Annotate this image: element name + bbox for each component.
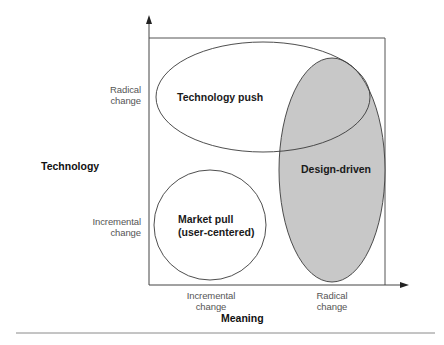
x-tick-incremental: Incremental change: [181, 290, 241, 312]
x-axis-arrow-icon: [400, 282, 409, 288]
design-driven-label: Design-driven: [301, 163, 371, 176]
technology-push-label: Technology push: [177, 91, 263, 104]
x-axis-title: Meaning: [221, 312, 264, 324]
x-tick-radical: Radical change: [302, 290, 362, 312]
y-tick-radical: Radical change: [100, 84, 141, 106]
y-axis-arrow-icon: [146, 15, 152, 24]
y-tick-incremental: Incremental change: [86, 216, 141, 238]
y-axis-title: Technology: [41, 160, 99, 172]
market-pull-label: Market pull (user-centered): [178, 213, 254, 239]
